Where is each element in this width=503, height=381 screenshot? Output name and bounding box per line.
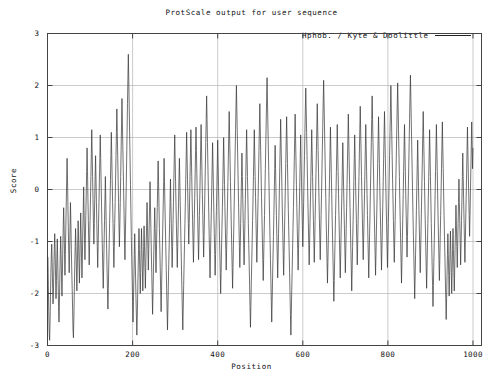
data-series-line bbox=[48, 54, 473, 340]
x-tick-label: 0 bbox=[28, 350, 68, 359]
y-tick-label: -1 bbox=[18, 237, 40, 246]
protscale-chart: ProtScale output for user sequence Hphob… bbox=[0, 0, 503, 381]
plot-canvas bbox=[0, 0, 503, 381]
y-tick-label: 1 bbox=[18, 133, 40, 142]
y-tick-label: 2 bbox=[18, 81, 40, 90]
y-tick-label: -3 bbox=[18, 341, 40, 350]
x-tick-label: 200 bbox=[113, 350, 153, 359]
x-tick-label: 600 bbox=[283, 350, 323, 359]
x-tick-label: 1000 bbox=[453, 350, 493, 359]
y-tick-label: 3 bbox=[18, 29, 40, 38]
x-tick-label: 800 bbox=[368, 350, 408, 359]
y-tick-label: -2 bbox=[18, 289, 40, 298]
x-tick-label: 400 bbox=[198, 350, 238, 359]
y-tick-label: 0 bbox=[18, 185, 40, 194]
